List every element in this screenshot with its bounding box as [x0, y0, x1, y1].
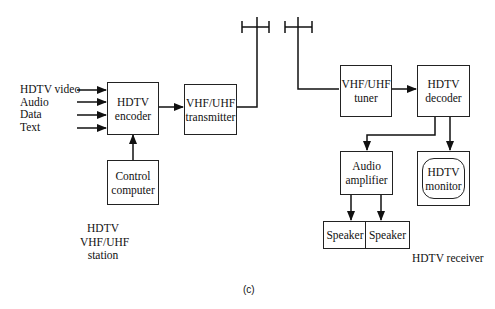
figure-caption: (c): [243, 283, 255, 297]
control-computer-box: Control computer: [107, 160, 159, 205]
hdtv-encoder-box: HDTV encoder: [107, 82, 159, 135]
monitor-screen: HDTV monitor: [422, 158, 465, 199]
receiver-label: HDTV receiver: [412, 252, 484, 266]
speaker-left-box: Speaker: [323, 221, 367, 249]
vhf-uhf-transmitter-box: VHF/UHF transmitter: [184, 84, 237, 135]
input-label-data: Data: [20, 108, 42, 122]
station-label: HDTV VHF/UHF station: [80, 222, 126, 263]
input-label-hdtv-video: HDTV video: [20, 83, 80, 97]
vhf-uhf-tuner-box: VHF/UHF tuner: [340, 65, 392, 117]
hdtv-decoder-box: HDTV decoder: [417, 65, 470, 117]
input-label-text: Text: [20, 121, 40, 135]
audio-amplifier-box: Audio amplifier: [340, 151, 393, 195]
speaker-right-box: Speaker: [365, 221, 410, 249]
hdtv-monitor-box: HDTV monitor: [417, 151, 470, 206]
